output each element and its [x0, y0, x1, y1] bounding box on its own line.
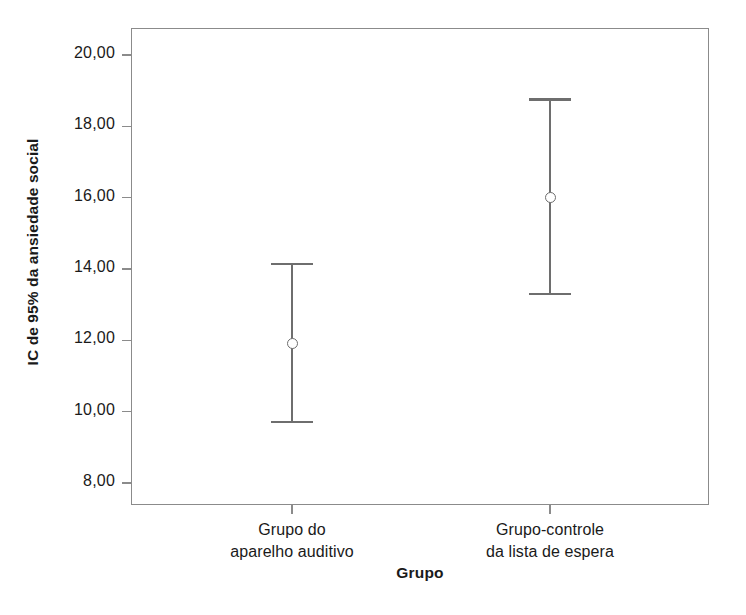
y-axis-tick-mark — [122, 340, 131, 342]
y-axis-tick-mark — [122, 411, 131, 413]
mean-marker-icon — [287, 338, 298, 349]
x-axis-tick-label: Grupo-controle da lista de espera — [410, 519, 690, 562]
y-axis-title: IC de 95% da ansiedade social — [24, 37, 42, 467]
y-axis-tick-mark — [122, 197, 131, 199]
y-axis-tick-mark — [122, 54, 131, 56]
y-axis-tick-mark — [122, 268, 131, 270]
x-axis-tick-label-line: Grupo-controle — [496, 521, 604, 538]
y-axis-tick-mark — [122, 126, 131, 128]
plot-area — [131, 28, 709, 505]
y-axis-tick-mark — [122, 482, 131, 484]
x-axis-tick-label-line: aparelho auditivo — [230, 543, 354, 560]
x-axis-tick-mark — [291, 505, 293, 514]
y-axis-tick-label: 20,00 — [74, 44, 115, 62]
error-bar-chart: IC de 95% da ansiedade social 20,00 18,0… — [0, 0, 746, 615]
x-axis-tick-label: Grupo do aparelho auditivo — [152, 519, 432, 562]
y-axis-tick-label: 12,00 — [74, 329, 115, 347]
y-axis-tick-label: 8,00 — [83, 472, 115, 490]
x-axis-title: Grupo — [131, 564, 709, 582]
y-axis-tick-label: 14,00 — [74, 258, 115, 276]
y-axis-tick-label: 16,00 — [74, 187, 115, 205]
x-axis-tick-mark — [549, 505, 551, 514]
x-axis-tick-label-line: Grupo do — [258, 521, 326, 538]
error-bar-lower-cap — [529, 293, 571, 295]
error-bar-lower-cap — [271, 421, 313, 423]
y-axis-tick-label: 18,00 — [74, 115, 115, 133]
y-axis-tick-label: 10,00 — [74, 401, 115, 419]
mean-marker-icon — [545, 192, 556, 203]
x-axis-tick-label-line: da lista de espera — [486, 543, 614, 560]
